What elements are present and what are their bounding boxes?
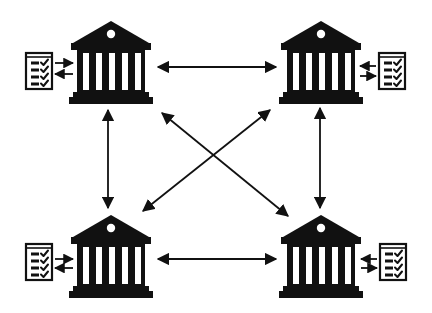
bank-bottom-right [279, 215, 406, 298]
diagram-canvas [0, 0, 432, 313]
bank-building-icon [69, 215, 153, 298]
checklist-document-icon [380, 244, 406, 280]
connection-arrow-bank-top-left-to-bank-bottom-right [162, 113, 288, 216]
bank-top-left [26, 21, 153, 104]
bank-top-right [279, 21, 405, 104]
checklist-document-icon [26, 53, 52, 89]
bank-building-icon [279, 21, 363, 104]
bank-building-icon [69, 21, 153, 104]
checklist-document-icon [379, 53, 405, 89]
connection-arrow-bank-top-right-to-bank-bottom-left [143, 110, 270, 211]
bank-building-icon [279, 215, 363, 298]
bank-bottom-left [26, 215, 153, 298]
nodes-layer [26, 21, 406, 298]
checklist-document-icon [26, 244, 52, 280]
bank-network-diagram: Interconnected banks network with ledger… [0, 0, 432, 313]
